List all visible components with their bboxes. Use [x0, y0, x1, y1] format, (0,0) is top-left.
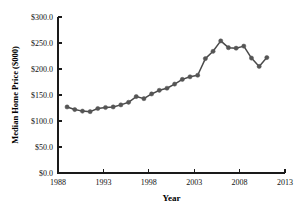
x-tick-label: 1998: [141, 178, 157, 187]
y-tick-label: $0.0: [39, 169, 53, 178]
data-point: [73, 107, 77, 111]
data-point: [80, 109, 84, 113]
x-axis-tick-labels: 198819931998200320082013: [50, 178, 293, 187]
x-tick-label: 2008: [232, 178, 248, 187]
median-home-price-chart: $0.0$50.0$100.0$150.0$200.0$250.0$300.0 …: [0, 0, 302, 213]
data-point: [134, 94, 138, 98]
y-axis-title: Median Home Price ($000): [10, 46, 20, 144]
y-tick-label: $100.0: [31, 117, 53, 126]
data-point: [142, 97, 146, 101]
y-tick-label: $50.0: [35, 143, 53, 152]
data-point: [149, 92, 153, 96]
data-point: [88, 110, 92, 114]
y-tick-label: $150.0: [31, 91, 53, 100]
data-point: [126, 100, 130, 104]
y-tick-label: $250.0: [31, 39, 53, 48]
x-tick-label: 2003: [186, 178, 202, 187]
data-point: [157, 88, 161, 92]
data-point: [65, 105, 69, 109]
data-point: [226, 46, 230, 50]
data-point: [242, 44, 246, 48]
data-point: [103, 105, 107, 109]
data-point: [203, 57, 207, 61]
data-point: [111, 105, 115, 109]
data-point: [96, 106, 100, 110]
data-point: [180, 77, 184, 81]
y-tick-label: $300.0: [31, 13, 53, 22]
y-axis-tick-labels: $0.0$50.0$100.0$150.0$200.0$250.0$300.0: [31, 13, 53, 178]
data-point: [165, 86, 169, 90]
data-point: [265, 55, 269, 59]
x-tick-label: 2013: [277, 178, 293, 187]
data-point: [188, 75, 192, 79]
data-point: [119, 103, 123, 107]
axis-frame: [58, 17, 285, 173]
x-tick-label: 1993: [95, 178, 111, 187]
data-point: [249, 56, 253, 60]
x-tick-label: 1988: [50, 178, 66, 187]
data-point: [173, 82, 177, 86]
data-point: [211, 49, 215, 53]
x-axis-tick-marks: [58, 169, 285, 173]
data-series-markers: [65, 39, 269, 114]
y-axis-tick-marks: [58, 17, 62, 173]
y-tick-label: $200.0: [31, 65, 53, 74]
x-axis-title: Year: [163, 193, 181, 203]
data-point: [219, 39, 223, 43]
data-point: [257, 64, 261, 68]
data-point: [196, 73, 200, 77]
data-series-line: [67, 41, 267, 112]
data-point: [234, 46, 238, 50]
chart-plot-area: $0.0$50.0$100.0$150.0$200.0$250.0$300.0 …: [0, 0, 302, 213]
